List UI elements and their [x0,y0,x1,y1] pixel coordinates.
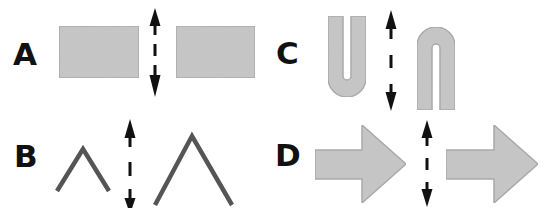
panel-b-large-chevron [155,136,232,205]
panel-b [57,119,232,208]
panel-b-double-arrow-icon [125,119,136,208]
panel-d-left-arrow-icon [315,125,406,203]
panel-a-left-rectangle [59,26,139,78]
panel-a-double-arrow-icon [150,8,161,97]
panel-b-small-chevron [57,149,109,191]
panel-c-u-shape [328,16,366,97]
panel-c-inverted-u-shape [417,27,455,110]
panel-a [59,8,255,97]
symmetry-figure: A B C D [0,0,550,208]
panel-c-double-arrow-icon [386,10,397,111]
panel-c [328,10,455,111]
panel-d-double-arrow-icon [422,120,433,207]
panel-d [315,120,538,207]
panel-d-right-arrow-icon [446,125,538,203]
panel-a-right-rectangle [176,26,255,78]
